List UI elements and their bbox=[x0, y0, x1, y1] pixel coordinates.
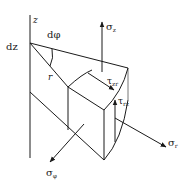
sigma-z-label: σz bbox=[106, 21, 116, 33]
top-edge-line bbox=[30, 43, 128, 68]
sigma-r-arrow bbox=[115, 118, 166, 147]
inner-bottom-edge-line bbox=[30, 92, 68, 130]
r-label: r bbox=[48, 72, 53, 82]
outer-arc-bottom bbox=[104, 100, 128, 160]
dphi-label: dφ bbox=[47, 29, 60, 40]
inner-arc bbox=[68, 70, 92, 87]
tau-zr-label: τzr bbox=[107, 76, 118, 87]
tau-rz-label: τrz bbox=[118, 96, 129, 107]
sigma-phi-label: σφ bbox=[46, 167, 57, 180]
dphi-angle-arc bbox=[50, 49, 53, 66]
z-axis-label: z bbox=[32, 15, 38, 25]
cylindrical-stress-element-diagram: z dφ dz r σz τzr τrz σr σφ bbox=[0, 0, 185, 183]
sigma-r-label: σr bbox=[168, 137, 178, 149]
top-face-front-edge bbox=[68, 87, 104, 110]
dz-label: dz bbox=[6, 41, 18, 52]
